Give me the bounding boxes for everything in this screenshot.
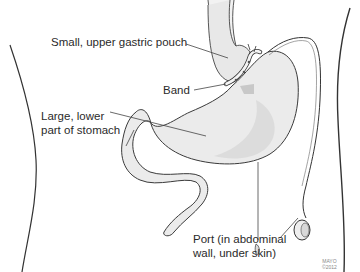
leader-band [194, 84, 226, 90]
gastric-band-diagram: Small, upper gastric pouch Band Large, l… [0, 0, 360, 272]
body-outline-right [338, 8, 351, 272]
label-port-line2: wall, under skin) [193, 246, 276, 260]
label-lower-stomach-line2: part of stomach [41, 123, 120, 137]
port-icon [294, 220, 310, 240]
label-port-line1: Port (in abdominal [193, 232, 286, 246]
credit-line2: ©2012 [322, 264, 337, 270]
copyright-credit: MAYO ©2012 [322, 258, 337, 270]
label-upper-pouch: Small, upper gastric pouch [51, 35, 187, 49]
body-outline-left [10, 45, 36, 272]
label-lower-stomach-line1: Large, lower [41, 109, 104, 123]
label-band: Band [163, 83, 190, 97]
lower-stomach [122, 51, 299, 236]
